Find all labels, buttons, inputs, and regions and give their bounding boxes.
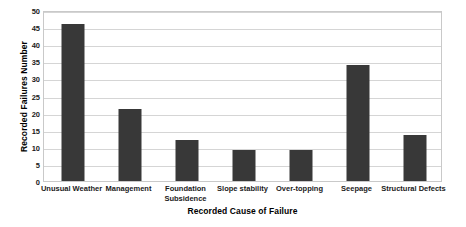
bar-chart-figure: Recorded Failures Number 051015202530354…	[0, 0, 466, 227]
bar	[403, 135, 426, 181]
plot-area	[43, 11, 442, 182]
bars-group	[44, 12, 441, 181]
y-tick-label: 20	[22, 109, 40, 118]
y-tick-label: 5	[22, 160, 40, 169]
y-tick-label: 40	[22, 41, 40, 50]
y-tick-label: 15	[22, 126, 40, 135]
y-tick-label: 30	[22, 75, 40, 84]
y-tick-label: 10	[22, 143, 40, 152]
bar	[61, 24, 84, 181]
y-tick-label: 35	[22, 58, 40, 67]
bar	[289, 150, 312, 181]
x-tick-label: Structural Defects	[376, 184, 452, 194]
bar	[346, 65, 369, 181]
bar	[175, 140, 198, 181]
y-tick-label: 45	[22, 24, 40, 33]
x-axis-title: Recorded Cause of Failure	[43, 206, 442, 216]
bar	[232, 150, 255, 181]
y-tick-label: 25	[22, 92, 40, 101]
x-axis-tick-labels: Unusual WeatherManagementFoundation Subs…	[43, 184, 442, 206]
y-tick-label: 50	[22, 7, 40, 16]
bar	[118, 109, 141, 181]
